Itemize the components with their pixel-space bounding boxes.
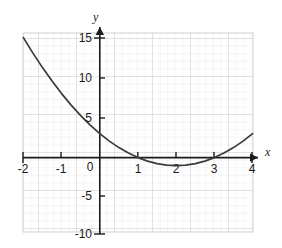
y-tick-label: 15 — [72, 32, 92, 44]
x-tick-label: -1 — [56, 163, 67, 175]
y-axis-label: y — [93, 11, 98, 23]
x-tick-label: 3 — [211, 163, 218, 175]
y-tick-label: 5 — [72, 112, 92, 124]
y-tick-label: -10 — [62, 228, 92, 240]
y-tick-label: -5 — [67, 190, 92, 202]
x-tick-label: 1 — [135, 163, 142, 175]
x-axis-label: x — [265, 146, 270, 158]
graph-canvas — [0, 0, 282, 248]
grid-lines — [23, 33, 253, 232]
origin-label: 0 — [87, 161, 94, 173]
x-tick-label: 4 — [249, 163, 256, 175]
y-tick-label: 10 — [72, 72, 92, 84]
x-tick-label: 2 — [173, 163, 180, 175]
chart-figure: -2 -1 0 1 2 3 4 15 10 5 -5 -10 y x — [0, 0, 282, 248]
x-tick-label: -2 — [18, 163, 29, 175]
